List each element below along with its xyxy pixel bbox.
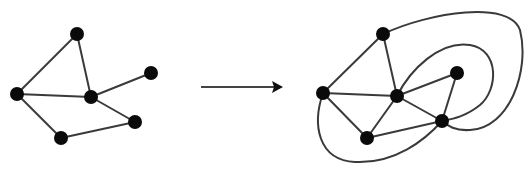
left-node-F (54, 131, 68, 145)
right-node-F (360, 131, 374, 145)
left-graph (10, 27, 158, 145)
right-edge-B-C (323, 93, 397, 96)
transformation-arrow-icon (201, 81, 283, 93)
right-node-A (376, 27, 390, 41)
left-edge-A-C (77, 34, 91, 97)
right-edge-A-C (383, 34, 397, 96)
left-edge-C-E (91, 97, 135, 122)
right-curved-edge-B-E (318, 93, 442, 162)
right-node-B (316, 86, 330, 100)
right-graph-nodes (316, 27, 464, 145)
right-node-D (450, 66, 464, 80)
left-edge-B-F (17, 94, 61, 138)
right-edge-C-E (397, 96, 442, 121)
left-edge-F-E (61, 122, 135, 138)
left-node-C (84, 90, 98, 104)
right-node-C (390, 89, 404, 103)
left-edge-B-C (17, 94, 91, 97)
right-edge-C-D (397, 73, 457, 96)
left-node-B (10, 87, 24, 101)
left-node-D (144, 66, 158, 80)
right-edge-A-B (323, 34, 383, 93)
right-node-E (435, 114, 449, 128)
right-graph (316, 12, 523, 162)
graph-transformation-diagram (0, 0, 527, 172)
left-edge-A-B (17, 34, 77, 94)
left-node-A (70, 27, 84, 41)
right-edge-B-F (323, 93, 367, 138)
left-graph-nodes (10, 27, 158, 145)
right-edge-D-E (442, 73, 457, 121)
left-node-E (128, 115, 142, 129)
left-edge-C-D (91, 73, 151, 97)
